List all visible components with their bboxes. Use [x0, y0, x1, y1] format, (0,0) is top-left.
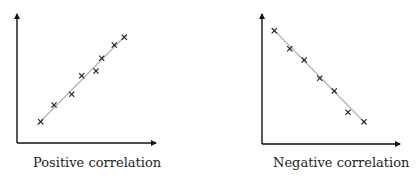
- trend-line: [272, 28, 366, 124]
- x-marker: [38, 119, 43, 124]
- x-marker: [332, 88, 337, 93]
- x-marker: [272, 28, 277, 33]
- negative-correlation-caption: Negative correlation: [273, 155, 409, 170]
- positive-correlation-caption: Positive correlation: [33, 155, 161, 170]
- x-marker: [69, 92, 74, 97]
- x-marker: [361, 119, 366, 124]
- x-marker: [93, 68, 98, 73]
- x-marker: [345, 110, 350, 115]
- trend-line: [37, 34, 127, 125]
- x-marker: [51, 102, 56, 107]
- x-marker: [79, 73, 84, 78]
- positive-correlation-chart: [17, 14, 156, 143]
- x-marker: [122, 35, 127, 40]
- negative-correlation-chart: [262, 14, 400, 144]
